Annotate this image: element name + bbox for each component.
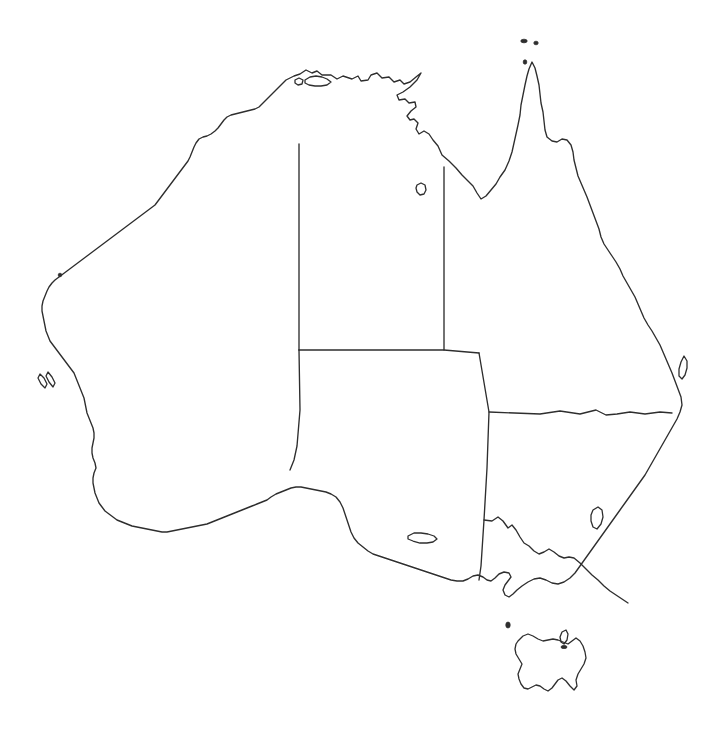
islet-flinders-north bbox=[561, 645, 567, 648]
islet-torres-east bbox=[534, 41, 538, 45]
map-background bbox=[0, 0, 720, 737]
islet-cape-york bbox=[523, 60, 527, 64]
australia-map-container bbox=[0, 0, 720, 737]
islet-king bbox=[506, 622, 510, 628]
australia-map-svg bbox=[0, 0, 720, 737]
islet-torres-west bbox=[521, 39, 527, 43]
islet-rottnest bbox=[58, 273, 62, 277]
